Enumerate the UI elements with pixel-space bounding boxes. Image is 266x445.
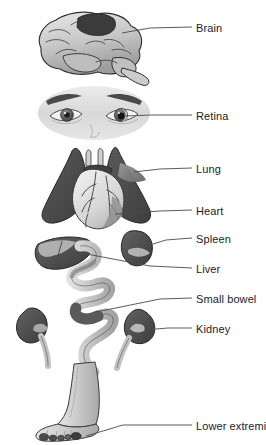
kidney-right xyxy=(117,309,155,368)
label-retina: Retina xyxy=(196,110,228,122)
lungs-heart-illustration xyxy=(42,147,151,228)
anatomy-figure: Brain Retina Lung Heart Spleen Liver Sma… xyxy=(0,0,266,445)
brain-illustration xyxy=(39,12,149,85)
spleen-illustration xyxy=(121,231,152,266)
label-heart: Heart xyxy=(196,205,223,217)
leader-line-lower-extremity xyxy=(86,425,192,436)
label-lower-extremity: Lower extremity xyxy=(196,420,266,432)
label-spleen: Spleen xyxy=(196,233,231,245)
leader-line-lung xyxy=(134,168,192,172)
brain-highlight-region xyxy=(77,14,116,36)
anatomy-illustration xyxy=(0,0,266,445)
kidney-left xyxy=(17,308,48,366)
label-kidney: Kidney xyxy=(196,323,230,335)
lower-extremity-illustration xyxy=(36,362,99,441)
label-small-bowel: Small bowel xyxy=(196,293,256,305)
small-bowel-highlight xyxy=(75,308,98,319)
label-brain: Brain xyxy=(196,22,222,34)
label-liver: Liver xyxy=(196,263,220,275)
label-lung: Lung xyxy=(196,163,221,175)
face-eyes-illustration xyxy=(38,86,150,140)
small-bowel-illustration xyxy=(72,246,113,372)
ureter-left xyxy=(41,336,48,366)
